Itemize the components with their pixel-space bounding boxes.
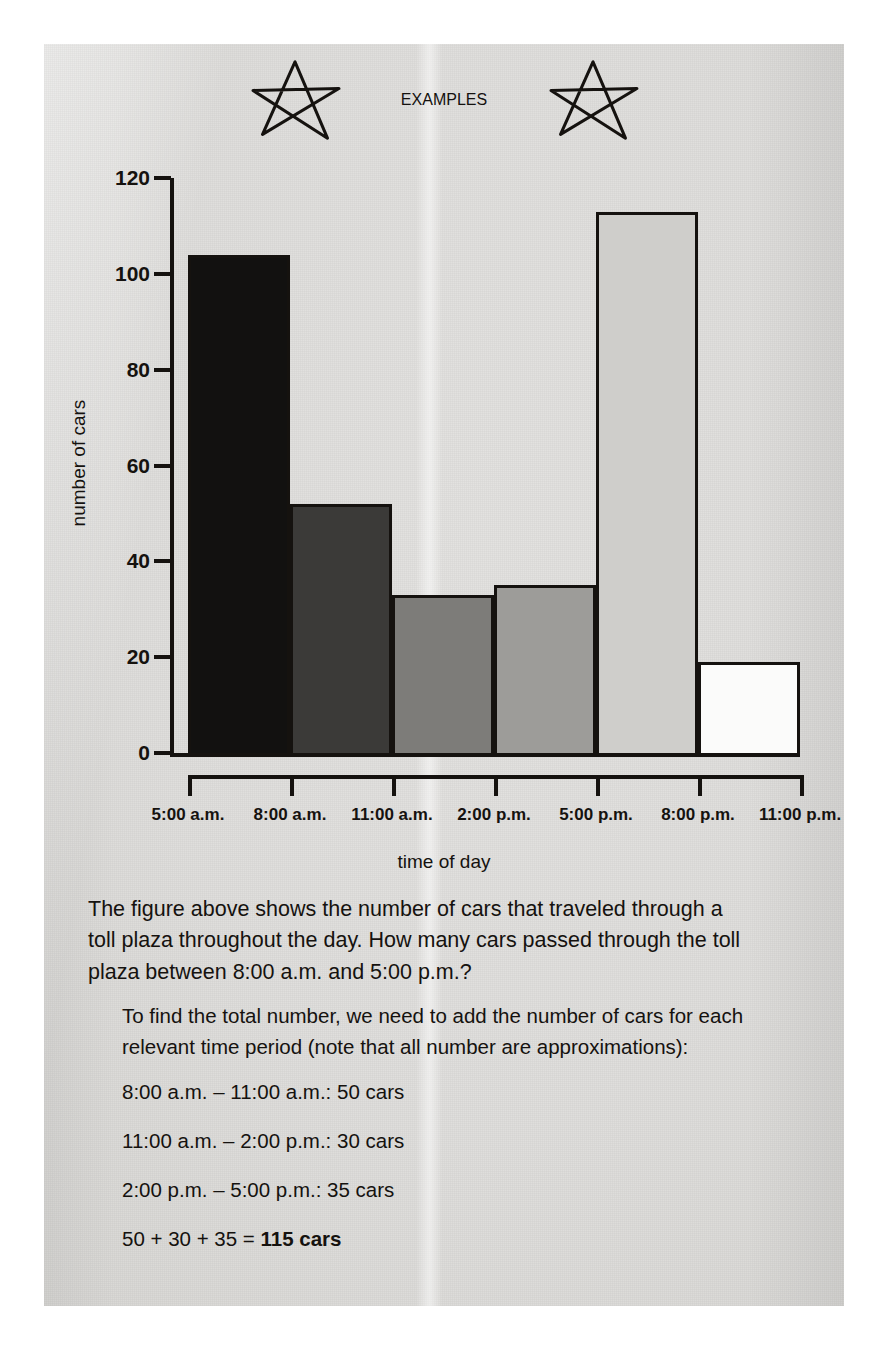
page-header: EXAMPLES: [44, 52, 844, 148]
y-tick-mark: [154, 655, 171, 659]
y-axis-title: number of cars: [68, 383, 90, 543]
x-tick-label: 2:00 p.m.: [457, 805, 531, 825]
solution-block: To find the total number, we need to add…: [122, 1000, 762, 1254]
y-tick-label: 120: [92, 166, 150, 190]
calc-line: 11:00 a.m. – 2:00 p.m.: 30 cars: [122, 1125, 762, 1156]
bar: [188, 255, 290, 756]
page-title: EXAMPLES: [401, 91, 487, 109]
x-tick-label: 11:00 p.m.: [759, 805, 841, 825]
solution-lead: To find the total number, we need to add…: [122, 1000, 762, 1062]
y-tick-mark: [154, 751, 171, 755]
y-tick-label: 20: [92, 645, 150, 669]
y-tick-mark: [154, 272, 171, 276]
star-icon: [545, 58, 641, 142]
bar: [494, 585, 596, 756]
x-tick-mark: [494, 775, 498, 796]
final-answer: 115 cars: [261, 1227, 342, 1250]
bar-chart: number of cars 020406080100120 5:00 a.m.…: [44, 150, 844, 870]
x-tick-mark: [800, 775, 804, 796]
y-tick-mark: [154, 464, 171, 468]
x-tick-label: 11:00 a.m.: [351, 805, 432, 825]
x-tick-mark: [596, 775, 600, 796]
star-icon: [247, 58, 343, 142]
total-expression: 50 + 30 + 35 =: [122, 1227, 261, 1250]
total-line: 50 + 30 + 35 = 115 cars: [122, 1223, 762, 1254]
y-tick-label: 0: [92, 741, 150, 765]
x-tick-mark: [290, 775, 294, 796]
x-tick-mark: [698, 775, 702, 796]
question-text: The figure above shows the number of car…: [88, 894, 748, 989]
bar: [392, 595, 494, 756]
calc-line: 2:00 p.m. – 5:00 p.m.: 35 cars: [122, 1174, 762, 1205]
y-tick-mark: [154, 176, 171, 180]
y-tick-label: 60: [92, 454, 150, 478]
y-tick-label: 40: [92, 549, 150, 573]
y-tick-mark: [154, 559, 171, 563]
bar: [290, 504, 392, 756]
x-tick-label: 8:00 p.m.: [661, 805, 735, 825]
calc-line: 8:00 a.m. – 11:00 a.m.: 50 cars: [122, 1076, 762, 1107]
y-tick-mark: [154, 368, 171, 372]
y-tick-label: 100: [92, 262, 150, 286]
x-tick-mark: [188, 775, 192, 796]
x-tick-label: 5:00 p.m.: [559, 805, 633, 825]
x-tick-label: 5:00 a.m.: [152, 805, 225, 825]
x-tick-mark: [392, 775, 396, 796]
x-axis-title: time of day: [44, 851, 844, 873]
x-tick-label: 8:00 a.m.: [254, 805, 327, 825]
bar: [698, 662, 800, 756]
y-tick-label: 80: [92, 358, 150, 382]
bar: [596, 212, 698, 756]
